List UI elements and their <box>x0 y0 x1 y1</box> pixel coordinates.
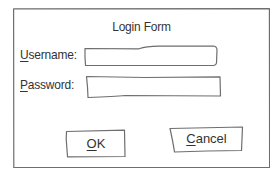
dialog-title: Login Form <box>23 19 259 34</box>
password-field[interactable] <box>85 75 222 99</box>
password-label: Password: <box>20 77 74 92</box>
username-input[interactable] <box>87 48 216 66</box>
ok-label-rest: K <box>97 136 106 151</box>
ok-button-label: OK <box>65 136 127 151</box>
username-field[interactable] <box>84 45 219 67</box>
login-dialog: Login Form Username: Password: OK Cancel <box>13 8 270 168</box>
cancel-label-rest: ancel <box>196 131 227 146</box>
cancel-button-label: Cancel <box>169 131 244 146</box>
username-label: Username: <box>20 47 77 62</box>
password-input[interactable] <box>88 78 220 97</box>
cancel-access-key: C <box>186 131 195 146</box>
cancel-button[interactable]: Cancel <box>169 126 244 156</box>
password-label-text: assword: <box>28 77 74 92</box>
ok-access-key: O <box>87 136 97 151</box>
username-access-key: U <box>20 47 28 62</box>
username-label-text: sername: <box>28 47 76 62</box>
ok-button[interactable]: OK <box>65 129 127 158</box>
